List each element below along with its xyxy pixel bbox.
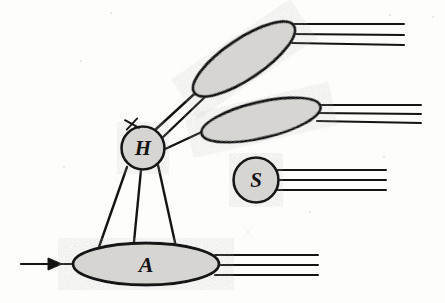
soft-blob-label: S bbox=[250, 168, 262, 192]
factorization-diagram: AHS bbox=[0, 0, 445, 303]
middle-jet-outgoing-lines-2 bbox=[317, 113, 421, 114]
target-blob-label: A bbox=[137, 252, 154, 277]
figure-canvas: AHS bbox=[0, 0, 445, 303]
hard-scattering-blob-label: H bbox=[134, 136, 152, 160]
upper-jet-outgoing-lines-2 bbox=[292, 34, 404, 35]
